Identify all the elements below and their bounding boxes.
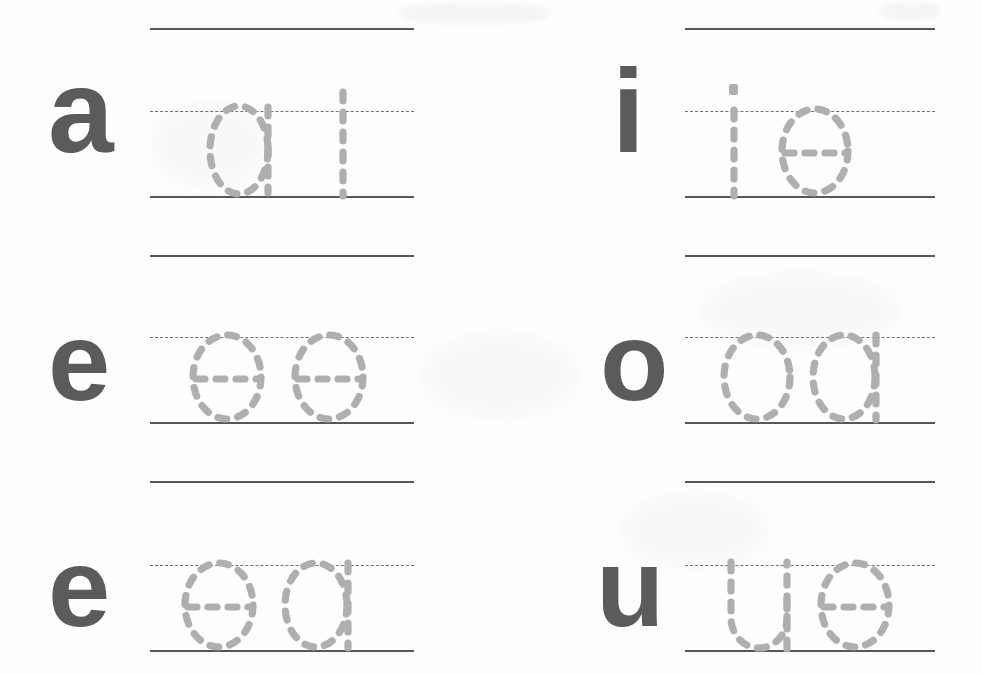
worksheet-cell-row3-right: u bbox=[530, 452, 982, 674]
guide-line-top bbox=[685, 255, 935, 257]
worksheet-page: a i bbox=[0, 0, 982, 674]
cell-label-letter: e bbox=[48, 532, 110, 644]
traced-letter-e bbox=[178, 560, 262, 656]
worksheet-cell-row2-left: e bbox=[0, 226, 460, 452]
worksheet-cell-row2-right: o bbox=[530, 226, 982, 452]
cell-label-letter: o bbox=[600, 306, 668, 418]
worksheet-cell-row1-right: i bbox=[530, 0, 982, 225]
traced-letter-t bbox=[332, 90, 358, 202]
traced-letter-e bbox=[186, 332, 270, 428]
traced-letter-a bbox=[206, 105, 284, 205]
traced-letter-e bbox=[288, 332, 372, 428]
guide-line-top bbox=[685, 28, 935, 30]
traced-letter-a bbox=[280, 560, 366, 656]
traced-letter-e bbox=[814, 560, 898, 656]
traced-letter-u bbox=[722, 560, 800, 656]
traced-letter-e bbox=[775, 105, 857, 201]
guide-line-top bbox=[150, 255, 414, 257]
worksheet-cell-row3-left: e bbox=[0, 452, 460, 674]
guide-line-top bbox=[150, 28, 414, 30]
cell-label-letter: a bbox=[48, 52, 114, 170]
cell-label-letter: e bbox=[48, 306, 110, 418]
traced-letter-o bbox=[718, 332, 798, 428]
cell-label-letter: i bbox=[612, 52, 645, 170]
worksheet-cell-row1-left: a bbox=[0, 0, 460, 225]
traced-letter-a bbox=[808, 332, 894, 428]
cell-label-letter: u bbox=[596, 532, 664, 644]
guide-line-top bbox=[685, 481, 935, 483]
guide-line-top bbox=[150, 481, 414, 483]
traced-letter-i bbox=[723, 84, 749, 202]
